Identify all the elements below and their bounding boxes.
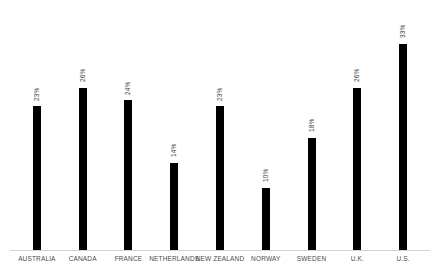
bar-group: 24%	[106, 0, 150, 250]
bar-group: 18%	[290, 0, 334, 250]
bar-value-label: 18%	[308, 118, 315, 132]
bar-value-label: 24%	[125, 81, 132, 95]
category-axis: AUSTRALIACANADAFRANCENETHERLANDSNEW ZEAL…	[0, 255, 440, 276]
bar-group: 26%	[335, 0, 379, 250]
bar-group: 33%	[381, 0, 425, 250]
bar-group: 14%	[152, 0, 196, 250]
bar-chart: 23%26%24%14%23%10%18%26%33% AUSTRALIACAN…	[0, 0, 440, 276]
bar-group: 23%	[15, 0, 59, 250]
bar-value-label: 10%	[263, 168, 270, 182]
bar-group: 10%	[244, 0, 288, 250]
bar[interactable]	[399, 44, 407, 250]
bar[interactable]	[33, 106, 41, 250]
bar-value-label: 23%	[217, 87, 224, 101]
bar-group: 23%	[198, 0, 242, 250]
bar-group: 26%	[61, 0, 105, 250]
bar-value-label: 33%	[400, 25, 407, 39]
bar[interactable]	[308, 138, 316, 251]
bar-value-label: 23%	[34, 87, 41, 101]
bar[interactable]	[124, 100, 132, 250]
bar[interactable]	[170, 163, 178, 251]
bar-value-label: 26%	[79, 68, 86, 82]
bar[interactable]	[353, 88, 361, 251]
x-axis-line	[10, 250, 430, 251]
bar[interactable]	[216, 106, 224, 250]
bar[interactable]	[79, 88, 87, 251]
bar[interactable]	[262, 188, 270, 251]
category-label: U.S.	[375, 255, 431, 262]
plot-area: 23%26%24%14%23%10%18%26%33%	[0, 0, 440, 250]
bar-value-label: 14%	[171, 143, 178, 157]
bar-value-label: 26%	[354, 68, 361, 82]
